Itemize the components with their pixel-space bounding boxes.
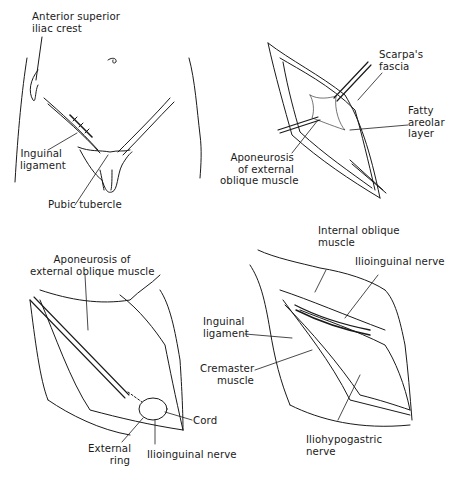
label-cremaster-muscle: Cremaster muscle <box>200 363 254 386</box>
label-line: ligament <box>20 160 62 172</box>
label-line: Inguinal <box>203 316 249 328</box>
label-line: layer <box>408 128 445 140</box>
panel-4-drawing <box>245 250 412 426</box>
label-line: Fatty <box>408 105 445 117</box>
label-line: Ilioinguinal nerve <box>147 449 237 461</box>
label-line: areolar <box>408 117 445 129</box>
label-pubic-tubercle: Pubic tubercle <box>48 199 122 211</box>
label-line: ring <box>88 455 130 467</box>
anatomical-figure: Anterior superior iliac crest Inguinal l… <box>0 0 455 479</box>
label-line: Cremaster <box>200 363 254 375</box>
label-cord: Cord <box>193 415 217 427</box>
label-line: Inguinal <box>20 148 62 160</box>
label-line: fascia <box>379 61 423 73</box>
label-ilioinguinal-nerve-1: Ilioinguinal nerve <box>147 449 237 461</box>
label-line: oblique muscle <box>220 175 294 187</box>
label-line: Iliohypogastric <box>306 434 382 446</box>
label-fatty-areolar-layer: Fatty areolar layer <box>408 105 445 140</box>
label-line: Aponeurosis <box>220 152 294 164</box>
label-line: Internal oblique <box>318 225 400 237</box>
label-line: Ilioinguinal nerve <box>355 256 445 268</box>
label-line: iliac crest <box>32 23 120 35</box>
label-aponeurosis-external-oblique-2: Aponeurosis of external oblique muscle <box>30 254 154 277</box>
label-inguinal-ligament-2: Inguinal ligament <box>203 316 249 339</box>
label-line: of external <box>220 164 294 176</box>
label-external-ring: External ring <box>88 443 130 466</box>
label-line: Aponeurosis of <box>30 254 154 266</box>
label-iliohypogastric-nerve: Iliohypogastric nerve <box>306 434 382 457</box>
panel-3-drawing <box>30 275 192 444</box>
label-ilioinguinal-nerve-2: Ilioinguinal nerve <box>355 256 445 268</box>
label-line: muscle <box>200 375 254 387</box>
label-scarpas-fascia: Scarpa's fascia <box>379 49 423 72</box>
panel-1-drawing <box>15 37 201 205</box>
label-line: Pubic tubercle <box>48 199 122 211</box>
label-line: Scarpa's <box>379 49 423 61</box>
label-inguinal-ligament-1: Inguinal ligament <box>20 148 62 171</box>
label-line: External <box>88 443 130 455</box>
label-line: external oblique muscle <box>30 266 154 278</box>
label-internal-oblique-muscle: Internal oblique muscle <box>318 225 400 248</box>
label-aponeurosis-external-oblique-1: Aponeurosis of external oblique muscle <box>220 152 294 187</box>
label-line: muscle <box>318 237 400 249</box>
label-line: Anterior superior <box>32 11 120 23</box>
label-line: Cord <box>193 415 217 427</box>
label-line: ligament <box>203 328 249 340</box>
label-anterior-superior-iliac-crest: Anterior superior iliac crest <box>32 11 120 34</box>
label-line: nerve <box>306 446 382 458</box>
